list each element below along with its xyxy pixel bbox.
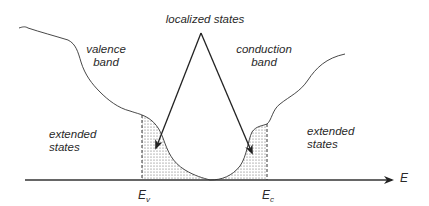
extended-right-line2: states [307,138,354,151]
ec-subscript: c [270,195,274,204]
conduction-tail-shading [210,124,267,180]
localized-arrow-left [156,33,201,148]
diagram-canvas [0,0,429,206]
extended-states-left-label: extended states [49,128,96,154]
valence-band-line2: band [84,56,128,69]
conduction-band-line1: conduction [234,43,294,56]
localized-states-text: localized states [166,13,245,25]
valence-band-label: valence band [84,43,128,69]
ev-label: Ev [138,189,150,206]
extended-left-line1: extended [49,128,96,141]
density-of-states-diagram: localized states valence band conduction… [0,0,429,206]
ec-label: Ec [262,189,274,206]
conduction-band-label: conduction band [234,43,294,69]
valence-band-line1: valence [84,43,128,56]
extended-left-line2: states [49,141,96,154]
conduction-band-line2: band [234,56,294,69]
extended-states-right-label: extended states [307,125,354,151]
extended-right-line1: extended [307,125,354,138]
energy-axis-label: E [400,172,408,185]
valence-tail-shading [142,115,210,180]
ev-subscript: v [146,195,150,204]
ev-main: E [138,188,146,202]
energy-axis-text: E [400,171,408,185]
localized-states-label: localized states [160,13,250,26]
ec-main: E [262,188,270,202]
conduction-band-curve [210,54,345,180]
